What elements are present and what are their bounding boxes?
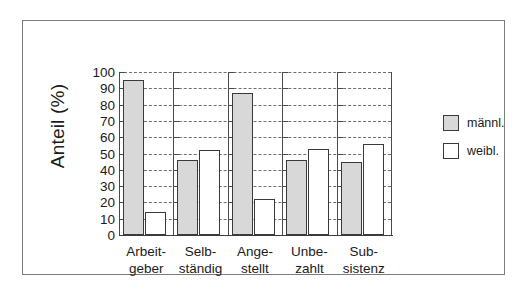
axis-tick: [282, 121, 288, 122]
y-tick-label: 0: [107, 229, 115, 242]
bar-maennl: [341, 162, 362, 235]
axis-tick: [337, 72, 343, 73]
gridline: [119, 137, 391, 138]
bar-weibl: [199, 150, 220, 235]
axis-tick: [337, 137, 343, 138]
y-tick-label: 10: [100, 213, 115, 226]
legend-label: männl.: [467, 115, 505, 131]
chart-legend: männl.weibl.: [443, 113, 523, 169]
axis-tick: [337, 88, 343, 89]
gridline: [119, 121, 391, 122]
axis-tick: [173, 137, 179, 138]
y-tick-label: 100: [92, 66, 115, 79]
legend-item[interactable]: weibl.: [443, 141, 523, 163]
group-axis-line: [391, 72, 392, 235]
bar-weibl: [363, 144, 384, 235]
bar-maennl: [123, 80, 144, 235]
axis-tick: [282, 105, 288, 106]
y-tick-label: 50: [100, 148, 115, 161]
axis-tick: [228, 88, 234, 89]
gridline: [119, 105, 391, 106]
axis-tick: [228, 72, 234, 73]
axis-tick: [337, 105, 343, 106]
gridline: [119, 88, 391, 89]
y-tick-label: 30: [100, 180, 115, 193]
y-tick-label: 70: [100, 115, 115, 128]
axis-tick: [173, 105, 179, 106]
bar-maennl: [177, 160, 198, 235]
axis-tick: [282, 88, 288, 89]
legend-swatch-female: [443, 143, 459, 159]
axis-tick: [282, 72, 288, 73]
axis-tick: [337, 121, 343, 122]
axis-tick: [173, 154, 179, 155]
y-tick-label: 80: [100, 99, 115, 112]
bar-maennl: [232, 93, 253, 235]
category-label-line: Sub-: [328, 243, 400, 260]
figure-frame: Anteil (%) 1009080706050403020100 Arbeit…: [22, 20, 505, 275]
gridline: [119, 72, 391, 73]
axis-tick: [282, 137, 288, 138]
bar-maennl: [286, 160, 307, 235]
legend-swatch-male: [443, 115, 459, 131]
axis-tick: [282, 154, 288, 155]
y-tick-label: 60: [100, 131, 115, 144]
axis-tick: [119, 72, 125, 73]
category-label: Sub-sistenz: [328, 243, 400, 277]
y-axis-tick-labels: 1009080706050403020100: [79, 62, 115, 245]
plot-area: [119, 72, 391, 235]
axis-tick: [173, 88, 179, 89]
category-label-line: sistenz: [328, 260, 400, 277]
bar-weibl: [145, 212, 166, 235]
chart-figure: Anteil (%) 1009080706050403020100 Arbeit…: [0, 0, 528, 296]
x-axis-baseline: [119, 235, 393, 236]
y-tick-label: 90: [100, 82, 115, 95]
axis-tick: [173, 121, 179, 122]
axis-tick: [337, 154, 343, 155]
axis-tick: [173, 72, 179, 73]
y-axis-title: Anteil (%): [45, 61, 71, 191]
y-tick-label: 40: [100, 164, 115, 177]
y-tick-label: 20: [100, 196, 115, 209]
legend-item[interactable]: männl.: [443, 113, 523, 135]
bar-weibl: [308, 149, 329, 235]
legend-label: weibl.: [467, 143, 499, 159]
bar-weibl: [254, 199, 275, 235]
gridline: [119, 154, 391, 155]
